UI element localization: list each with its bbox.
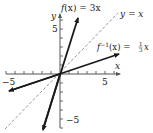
- function-label-rest: (x) = 3x: [64, 3, 100, 13]
- inverse-label-exp: −1: [100, 41, 109, 48]
- x-tick-label-neg5: −5: [2, 77, 16, 87]
- function-inverse-plot: x y −5 5 5 −5 f(x) = 3x y = x f−1(x) = 1…: [0, 0, 153, 133]
- y-tick-label-neg5: −5: [66, 115, 80, 125]
- inverse-label-fraction-num: 1: [139, 41, 143, 47]
- identity-label: y = x: [119, 9, 143, 19]
- inverse-label-rest: (x) =: [109, 42, 130, 52]
- function-label: f(x) = 3x: [60, 3, 101, 13]
- inverse-label-fraction-den: 3: [139, 47, 143, 53]
- inverse-label: f−1(x) =: [96, 41, 130, 53]
- x-tick-label-pos5: 5: [102, 77, 108, 87]
- x-axis-label: x: [115, 61, 120, 71]
- inverse-line-left: [9, 74, 60, 91]
- y-tick-label-pos5: 5: [52, 24, 58, 34]
- function-line-f-lower: [43, 74, 60, 130]
- inverse-label-x: x: [144, 42, 149, 52]
- y-axis-label: y: [50, 11, 57, 21]
